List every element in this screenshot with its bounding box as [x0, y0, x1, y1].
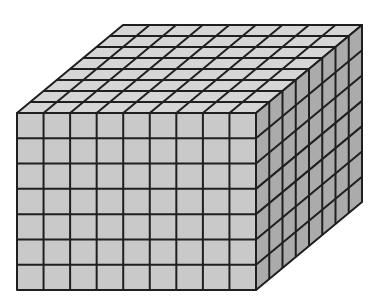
front-face-outline [17, 113, 256, 290]
cube-diagram [0, 0, 380, 307]
rectangular-prism-drawing [0, 0, 380, 307]
front-face [17, 113, 256, 290]
